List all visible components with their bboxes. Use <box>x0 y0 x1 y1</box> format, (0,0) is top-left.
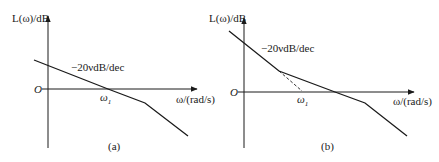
x-axis-label-b: ω/(rad/s) <box>393 95 432 108</box>
y-axis-label-a: L(ω)/dB <box>12 12 49 25</box>
dashed-asymptote-b <box>279 71 302 91</box>
slope-label-b: −20νdB/dec <box>261 42 314 54</box>
caption-a: (a) <box>108 140 121 153</box>
panel-a: L(ω)/dB O −20νdB/dec ω1 ω/(rad/s) (a) <box>12 12 215 153</box>
caption-b: (b) <box>321 140 334 153</box>
panel-b: L(ω)/dB O −20νdB/dec ω1 ω/(rad/s) (b) <box>209 12 432 153</box>
origin-label-b: O <box>230 86 238 98</box>
bode-diagram: L(ω)/dB O −20νdB/dec ω1 ω/(rad/s) (a) L(… <box>0 0 439 162</box>
y-axis-label-b: L(ω)/dB <box>209 12 246 25</box>
break-frequency-label-a: ω1 <box>100 91 111 106</box>
break-frequency-label-b: ω1 <box>297 93 308 108</box>
magnitude-curve-b <box>229 31 407 136</box>
origin-label-a: O <box>34 83 42 95</box>
x-axis-label-a: ω/(rad/s) <box>176 93 215 106</box>
slope-label-a: −20νdB/dec <box>71 61 124 73</box>
